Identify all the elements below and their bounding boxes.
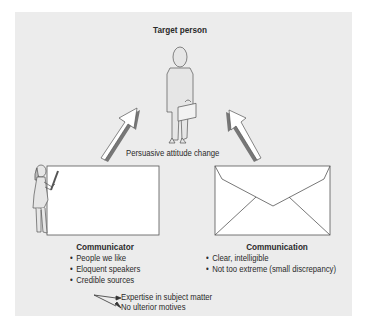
communication-title: Communication xyxy=(230,241,325,252)
list-item: Credible sources xyxy=(70,275,140,286)
list-item: Clear, intelligible xyxy=(206,253,336,264)
target-person-icon xyxy=(167,47,196,143)
communicator-board xyxy=(47,166,159,235)
credible-sources-pointer-icon xyxy=(94,295,121,308)
communication-envelope-icon xyxy=(215,166,330,235)
target-person-label: Target person xyxy=(137,24,223,35)
list-item: Not too extreme (small discrepancy) xyxy=(206,264,336,275)
list-item: People we like xyxy=(70,253,140,264)
communicator-sub-item: No ulterior motives xyxy=(121,302,186,313)
communicator-title: Communicator xyxy=(58,241,153,252)
communicator-list: People we like Eloquent speakers Credibl… xyxy=(70,253,140,286)
communication-list: Clear, intelligible Not too extreme (sma… xyxy=(206,253,336,275)
right-arrow-icon xyxy=(226,110,261,162)
diagram-art xyxy=(0,0,369,330)
persuasive-attitude-change-label: Persuasive attitude change xyxy=(126,148,219,159)
list-item: Eloquent speakers xyxy=(70,264,140,275)
